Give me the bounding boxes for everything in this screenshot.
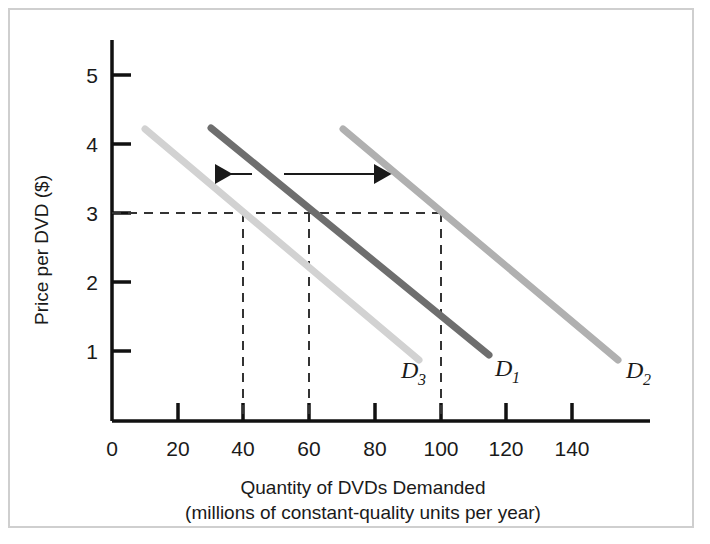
x-tick-label-60: 60	[297, 437, 320, 460]
x-tick-label-40: 40	[231, 437, 254, 460]
curve-label-D2: D	[625, 357, 643, 383]
x-tick-label-20: 20	[166, 437, 189, 460]
x-axis-ticks	[178, 403, 572, 421]
y-tick-label-5: 5	[86, 64, 98, 87]
x-axis-title-line1: Quantity of DVDs Demanded	[240, 477, 485, 498]
curve-label-D3: D	[400, 357, 418, 383]
y-tick-label-3: 3	[86, 202, 98, 225]
y-tick-label-1: 1	[86, 340, 98, 363]
y-tick-label-2: 2	[86, 271, 98, 294]
axes-group	[112, 40, 650, 421]
x-tick-label-100: 100	[423, 437, 458, 460]
x-tick-label-80: 80	[363, 437, 386, 460]
demand-curve-D2	[343, 129, 618, 360]
curve-label-D3-group: D 3	[400, 357, 426, 388]
x-axis-title-line2: (millions of constant-quality units per …	[185, 502, 541, 523]
y-tick-label-4: 4	[86, 133, 98, 156]
curve-label-D3-subscript: 3	[417, 371, 426, 388]
curve-label-D1: D	[494, 355, 512, 381]
x-axis-tick-labels: 0 20 40 60 80 100 120 140	[106, 437, 589, 460]
demand-curve-chart: 5 4 3 2 1 0 20 40 60 80 100 120 140	[10, 10, 692, 526]
curve-label-D2-subscript: 2	[643, 371, 651, 388]
x-tick-label-120: 120	[488, 437, 523, 460]
curve-label-D1-group: D 1	[494, 355, 520, 386]
demand-curve-D3	[145, 129, 419, 360]
curve-label-D1-subscript: 1	[512, 369, 520, 386]
y-axis-title: Price per DVD ($)	[31, 175, 52, 325]
y-axis-tick-labels: 5 4 3 2 1	[86, 64, 98, 363]
figure-frame: 5 4 3 2 1 0 20 40 60 80 100 120 140	[8, 8, 694, 528]
demand-curve-D1	[211, 128, 489, 355]
demand-curves	[145, 128, 618, 360]
x-tick-label-140: 140	[554, 437, 589, 460]
curve-label-D2-group: D 2	[625, 357, 651, 388]
x-tick-label-0: 0	[106, 437, 118, 460]
